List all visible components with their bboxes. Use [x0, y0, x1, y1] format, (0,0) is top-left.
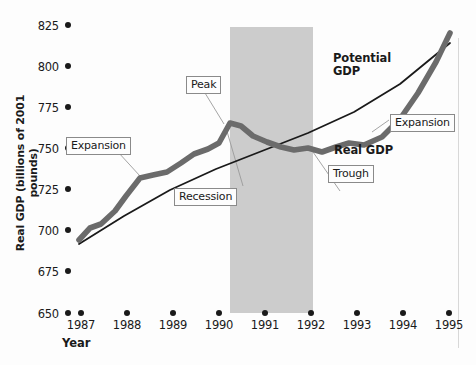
y-tick-label-775: 775 — [25, 101, 59, 115]
y-tick-label-650: 650 — [25, 307, 59, 321]
y-tick-label-750: 750 — [25, 142, 59, 156]
y-tick-label-675: 675 — [25, 265, 59, 279]
recession-shaded-band — [230, 27, 313, 313]
x-tick-label-1990: 1990 — [198, 318, 240, 332]
x-tick-dot-1989 — [170, 310, 176, 316]
x-tick-label-1992: 1992 — [290, 318, 332, 332]
x-tick-dot-1994 — [400, 310, 406, 316]
y-tick-dot-650 — [65, 310, 71, 316]
x-tick-label-1988: 1988 — [106, 318, 148, 332]
y-tick-label-825: 825 — [25, 19, 59, 33]
x-tick-dot-1988 — [124, 310, 130, 316]
annotation-expansion-right: Expansion — [390, 114, 455, 132]
y-tick-dot-825 — [65, 22, 71, 28]
y-tick-label-700: 700 — [25, 224, 59, 238]
x-tick-label-1989: 1989 — [152, 318, 194, 332]
y-tick-dot-675 — [65, 268, 71, 274]
annotation-trough: Trough — [328, 165, 374, 183]
series-label-potential-gdp-line2: GDP — [333, 65, 391, 78]
annotation-expansion-left: Expansion — [66, 137, 131, 155]
x-tick-label-1995: 1995 — [428, 318, 470, 332]
x-tick-label-1994: 1994 — [382, 318, 424, 332]
series-label-potential-gdp: Potential GDP — [333, 52, 391, 78]
y-tick-dot-700 — [65, 227, 71, 233]
x-tick-label-1991: 1991 — [244, 318, 286, 332]
x-tick-dot-1993 — [354, 310, 360, 316]
leader-line-peak — [205, 93, 224, 124]
gdp-business-cycle-chart: Real GDP (billions of 2001 pounds) Year … — [0, 0, 476, 365]
y-tick-dot-725 — [65, 186, 71, 192]
y-tick-dot-800 — [65, 63, 71, 69]
y-tick-label-800: 800 — [25, 60, 59, 74]
leader-line-expansion-left — [118, 152, 140, 176]
x-tick-dot-1991 — [262, 310, 268, 316]
x-tick-dot-1992 — [308, 310, 314, 316]
chart-right-frame-line — [458, 38, 459, 348]
x-tick-dot-1995 — [446, 310, 452, 316]
x-tick-label-1993: 1993 — [336, 318, 378, 332]
x-axis-title: Year — [62, 336, 91, 350]
x-tick-label-1987: 1987 — [60, 318, 102, 332]
x-tick-dot-1987 — [78, 310, 84, 316]
annotation-recession: Recession — [174, 188, 237, 206]
series-label-real-gdp: Real GDP — [334, 144, 393, 157]
annotation-peak: Peak — [186, 76, 221, 94]
y-tick-dot-775 — [65, 104, 71, 110]
y-tick-label-725: 725 — [25, 183, 59, 197]
x-tick-dot-1990 — [216, 310, 222, 316]
leader-line-expansion-right — [372, 120, 389, 132]
